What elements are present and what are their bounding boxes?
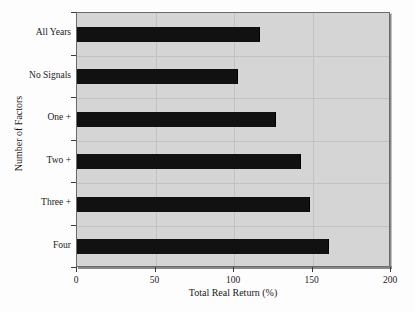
x-axis-tick-label: 150 xyxy=(292,275,332,285)
x-axis-tick-mark xyxy=(233,267,234,272)
y-axis-tick-mark xyxy=(71,225,76,226)
x-axis-tick-label: 0 xyxy=(56,275,96,285)
y-axis-tick-mark xyxy=(71,140,76,141)
y-axis-tick-label: Two + xyxy=(47,155,71,165)
y-axis-tick-label: No Signals xyxy=(29,70,71,80)
x-axis-tick-mark xyxy=(155,267,156,272)
y-axis-tick-label: Three + xyxy=(41,197,71,207)
gridline-vertical xyxy=(391,13,392,266)
y-axis-tick-mark xyxy=(71,55,76,56)
bar xyxy=(77,27,260,42)
bar xyxy=(77,197,310,212)
bar xyxy=(77,154,301,169)
bar xyxy=(77,112,276,127)
bar xyxy=(77,239,329,254)
y-axis-tick-mark xyxy=(71,12,76,13)
y-axis-tick-label: All Years xyxy=(36,27,71,37)
y-axis-tick-labels: FourThree +Two +One +No SignalsAll Years xyxy=(0,0,71,312)
x-axis-tick-mark xyxy=(76,267,77,272)
x-axis-tick-label: 200 xyxy=(370,275,410,285)
bars-group xyxy=(77,13,389,266)
x-axis-tick-mark xyxy=(390,267,391,272)
chart-figure: Number of Factors FourThree +Two +One +N… xyxy=(0,0,415,312)
bar xyxy=(77,69,238,84)
y-axis-tick-mark xyxy=(71,182,76,183)
x-axis-tick-label: 50 xyxy=(135,275,175,285)
x-axis-title: Total Real Return (%) xyxy=(76,287,390,298)
y-axis-tick-label: Four xyxy=(53,240,71,250)
y-axis-tick-mark xyxy=(71,97,76,98)
x-axis-tick-mark xyxy=(312,267,313,272)
y-axis-tick-label: One + xyxy=(47,112,71,122)
x-axis-tick-label: 100 xyxy=(213,275,253,285)
plot-area xyxy=(76,12,390,267)
